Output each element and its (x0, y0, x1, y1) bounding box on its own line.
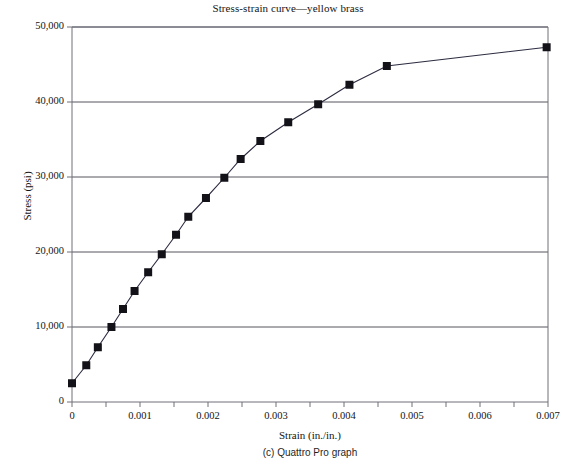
data-point-marker (220, 174, 228, 182)
data-point-marker (237, 155, 245, 163)
data-point-marker (158, 250, 166, 258)
stress-strain-figure: Stress-strain curve—yellow brass Stress … (0, 0, 576, 476)
x-tick-label: 0.006 (450, 410, 510, 421)
x-axis-title: Strain (in./in.) (72, 429, 548, 441)
data-point-marker (94, 343, 102, 351)
data-point-marker (345, 81, 353, 89)
data-point-marker (144, 268, 152, 276)
x-tick-label: 0 (42, 410, 102, 421)
data-point-marker (284, 118, 292, 126)
series-line-0 (72, 47, 547, 383)
y-tick-label: 30,000 (6, 170, 64, 181)
x-tick-label: 0.005 (382, 410, 442, 421)
data-point-marker (82, 361, 90, 369)
y-tick-label: 0 (6, 395, 64, 406)
y-axis-title: Stress (psi) (21, 136, 33, 256)
data-point-marker (256, 137, 264, 145)
chart-plot-area (0, 0, 576, 476)
data-point-marker (172, 231, 180, 239)
x-tick-label: 0.007 (518, 410, 576, 421)
x-tick-label: 0.003 (246, 410, 306, 421)
data-point-marker (543, 43, 551, 51)
x-tick-label: 0.002 (178, 410, 238, 421)
figure-caption: (c) Quattro Pro graph (72, 447, 548, 458)
data-point-marker (131, 287, 139, 295)
y-tick-label: 40,000 (6, 95, 64, 106)
y-tick-label: 10,000 (6, 320, 64, 331)
data-point-marker (68, 379, 76, 387)
data-point-marker (107, 323, 115, 331)
data-point-marker (383, 62, 391, 70)
y-tick-label: 50,000 (6, 20, 64, 31)
data-point-marker (184, 213, 192, 221)
data-point-marker (119, 305, 127, 313)
data-point-marker (202, 194, 210, 202)
data-point-marker (314, 100, 322, 108)
x-tick-label: 0.004 (314, 410, 374, 421)
x-tick-label: 0.001 (110, 410, 170, 421)
y-tick-label: 20,000 (6, 245, 64, 256)
